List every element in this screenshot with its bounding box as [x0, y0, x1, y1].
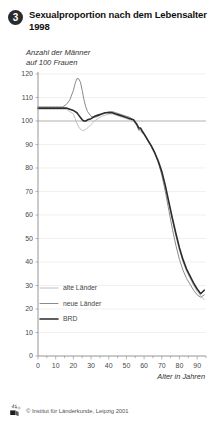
- legend-label: alte Länder: [63, 284, 98, 291]
- series-line-alte-länder: [38, 109, 204, 299]
- y-tick-label: 0: [29, 352, 33, 359]
- y-tick-label: 110: [22, 94, 33, 101]
- series-line-neue-länder: [38, 79, 204, 298]
- chart-page: 3 Sexualproportion nach dem Lebensalter …: [0, 0, 215, 432]
- x-tick-label: 70: [158, 362, 166, 369]
- chart-header: 3 Sexualproportion nach dem Lebensalter …: [8, 9, 208, 33]
- figure-number-badge: 3: [8, 10, 23, 25]
- x-tick-label: 30: [87, 362, 95, 369]
- y-axis-ticks: 0102030405060708090100110120: [21, 70, 38, 359]
- y-tick-label: 80: [25, 164, 33, 171]
- x-tick-label: 90: [193, 362, 201, 369]
- x-axis-ticks: 0102030405060708090: [36, 356, 206, 369]
- x-axis-title: Alter in Jahren: [156, 372, 205, 381]
- line-chart: 0102030405060708090100110120 01020304050…: [0, 66, 215, 386]
- y-tick-label: 20: [25, 305, 33, 312]
- x-tick-label: 20: [69, 362, 77, 369]
- data-series: [38, 79, 204, 300]
- x-tick-label: 40: [105, 362, 113, 369]
- y-tick-label: 40: [25, 258, 33, 265]
- y-tick-label: 10: [25, 329, 33, 336]
- page-title: Sexualproportion nach dem Lebensalter 19…: [29, 9, 208, 33]
- chart-legend: alte Länderneue LänderBRD: [40, 284, 102, 322]
- x-tick-label: 10: [52, 362, 60, 369]
- copyright-text: © Institut für Länderkunde, Leipzig 2001: [26, 408, 129, 414]
- legend-label: BRD: [63, 315, 77, 322]
- y-tick-label: 90: [25, 141, 33, 148]
- institute-logo-icon: [8, 403, 21, 418]
- grid-lines: [38, 74, 206, 333]
- y-tick-label: 60: [25, 211, 33, 218]
- chart-area: 0102030405060708090100110120 01020304050…: [0, 66, 215, 386]
- y-tick-label: 70: [25, 188, 33, 195]
- series-line-brd: [38, 108, 204, 294]
- y-tick-label: 120: [21, 70, 33, 77]
- x-tick-label: 60: [140, 362, 148, 369]
- y-tick-label: 50: [25, 235, 33, 242]
- chart-footer: © Institut für Länderkunde, Leipzig 2001: [8, 403, 213, 418]
- x-tick-label: 50: [123, 362, 131, 369]
- x-tick-label: 80: [176, 362, 184, 369]
- y-tick-label: 30: [25, 282, 33, 289]
- legend-label: neue Länder: [63, 300, 102, 307]
- x-tick-label: 0: [36, 362, 40, 369]
- y-tick-label: 100: [21, 117, 33, 124]
